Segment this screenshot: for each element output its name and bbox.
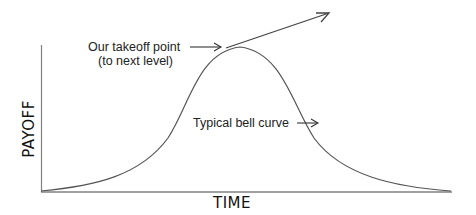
y-axis-label: PAYOFF bbox=[20, 94, 38, 164]
takeoff-label-line2: (to next level) bbox=[98, 54, 173, 68]
takeoff-label-line1: Our takeoff point bbox=[88, 40, 180, 54]
bell-curve-diagram bbox=[0, 0, 476, 215]
bell-curve-label: Typical bell curve bbox=[193, 116, 289, 130]
x-axis-label: TIME bbox=[213, 194, 251, 212]
takeoff-arrow bbox=[226, 13, 329, 48]
takeoff-arrowhead bbox=[316, 13, 329, 22]
